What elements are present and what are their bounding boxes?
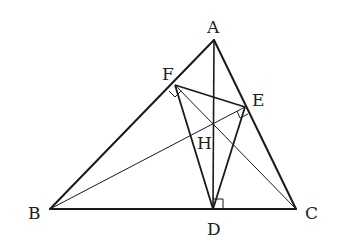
label-f: F xyxy=(162,64,174,84)
segment-ab xyxy=(50,40,214,209)
label-a: A xyxy=(206,17,220,37)
altitude-be xyxy=(50,107,245,209)
label-c: C xyxy=(305,203,318,223)
segment-ed xyxy=(213,107,245,209)
geometry-diagram: A B C D E F H xyxy=(0,0,341,241)
label-b: B xyxy=(28,203,41,223)
label-e: E xyxy=(252,90,264,110)
segment-ac xyxy=(214,40,296,209)
label-d: D xyxy=(207,219,221,239)
label-h: H xyxy=(197,133,212,153)
